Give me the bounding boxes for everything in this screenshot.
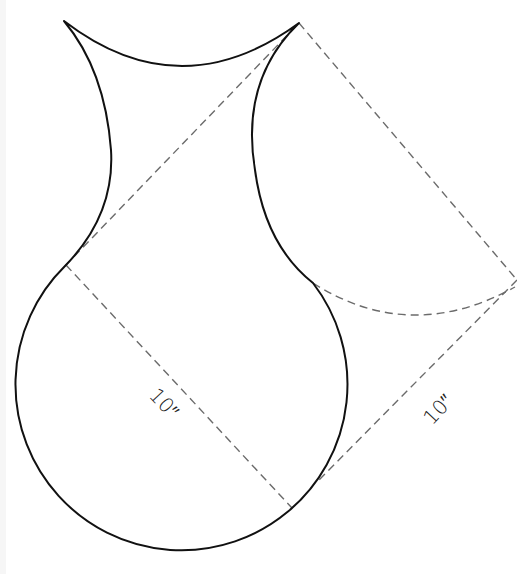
- vase-diagram: 10″ 10″: [0, 0, 517, 574]
- diameter-label: 10″: [144, 383, 184, 423]
- square-side-label: 10″: [418, 389, 458, 429]
- diagram-canvas: 10″ 10″: [0, 0, 517, 574]
- construction-arc: [313, 283, 515, 315]
- diameter-line: [66, 265, 292, 508]
- vase-outline: [15, 21, 347, 550]
